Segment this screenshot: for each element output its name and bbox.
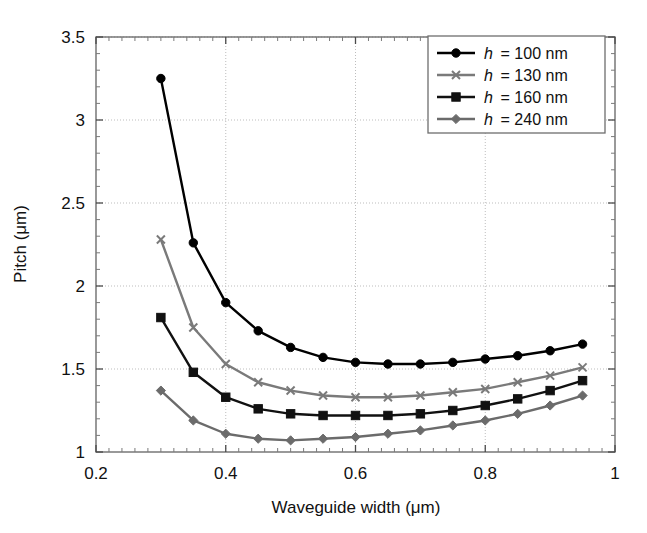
data-point-square [286, 410, 294, 418]
x-axis-label: Waveguide width (μm) [272, 498, 441, 517]
legend-label: h = 130 nm [484, 67, 568, 84]
legend-value: = 160 nm [493, 89, 568, 106]
data-point-square [254, 405, 262, 413]
data-point-circle [452, 49, 460, 57]
x-tick-label: 0.4 [214, 464, 238, 483]
y-tick-label: 2 [76, 277, 85, 296]
data-point-circle [254, 327, 262, 335]
chart-legend: h = 100 nmh = 130 nmh = 160 nmh = 240 nm [428, 36, 605, 133]
legend-variable: h [484, 45, 493, 62]
y-tick-label: 2.5 [61, 194, 85, 213]
data-point-circle [449, 358, 457, 366]
data-point-square [319, 411, 327, 419]
data-point-circle [189, 239, 197, 247]
data-point-circle [319, 353, 327, 361]
x-tick-label: 0.8 [473, 464, 497, 483]
data-point-circle [578, 340, 586, 348]
data-point-square [384, 411, 392, 419]
data-point-circle [416, 360, 424, 368]
y-tick-label: 1.5 [61, 360, 85, 379]
data-point-circle [222, 298, 230, 306]
data-point-circle [384, 360, 392, 368]
x-tick-label: 0.6 [344, 464, 368, 483]
data-point-square [452, 93, 460, 101]
data-point-square [222, 393, 230, 401]
data-point-circle [546, 347, 554, 355]
pitch-vs-waveguide-width-chart: 0.20.40.60.81 11.522.533.5 h = 100 nmh =… [0, 0, 647, 533]
y-axis-label: Pitch (μm) [11, 205, 30, 283]
y-tick-label: 3.5 [61, 28, 85, 47]
data-point-square [578, 376, 586, 384]
data-point-square [189, 368, 197, 376]
y-tick-label: 3 [76, 111, 85, 130]
data-point-square [546, 386, 554, 394]
chart-figure: 0.20.40.60.81 11.522.533.5 h = 100 nmh =… [0, 0, 647, 533]
legend-label: h = 160 nm [484, 89, 568, 106]
legend-label: h = 100 nm [484, 45, 568, 62]
data-point-square [351, 411, 359, 419]
data-point-circle [481, 355, 489, 363]
data-point-square [157, 313, 165, 321]
data-point-circle [157, 74, 165, 82]
x-tick-label: 1 [610, 464, 619, 483]
data-point-circle [351, 358, 359, 366]
legend-variable: h [484, 111, 493, 128]
data-point-circle [286, 343, 294, 351]
legend-value: = 130 nm [493, 67, 568, 84]
data-point-square [416, 410, 424, 418]
data-point-circle [513, 352, 521, 360]
legend-variable: h [484, 67, 493, 84]
data-point-square [449, 406, 457, 414]
data-point-square [513, 395, 521, 403]
legend-label: h = 240 nm [484, 111, 568, 128]
x-tick-label: 0.2 [84, 464, 108, 483]
legend-value: = 100 nm [493, 45, 568, 62]
data-point-square [481, 401, 489, 409]
legend-variable: h [484, 89, 493, 106]
legend-value: = 240 nm [493, 111, 568, 128]
y-tick-label: 1 [76, 443, 85, 462]
